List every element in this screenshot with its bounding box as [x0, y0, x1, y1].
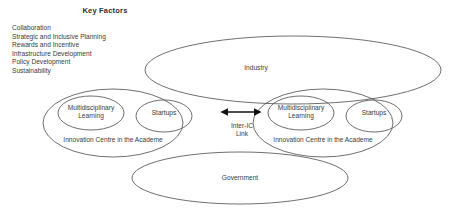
inter-ic-link-label-line1: Inter-IC [231, 122, 253, 129]
right-innovation-centre-label: Innovation Centre in the Academe [268, 136, 378, 144]
left-multidisciplinary-learning-label: Multidisciplinary Learning [62, 104, 120, 121]
diagram-canvas: Key Factors Collaboration Strategic and … [0, 0, 463, 220]
inter-ic-link-label-line2: Link [236, 130, 248, 137]
inter-ic-link-label: Inter-IC Link [220, 122, 264, 139]
industry-label: Industry [216, 64, 296, 72]
left-startups-label: Startups [140, 109, 188, 117]
right-startups-label: Startups [350, 109, 398, 117]
left-innovation-centre-label: Innovation Centre in the Academe [58, 136, 168, 144]
government-label: Government [200, 174, 280, 182]
right-multidisciplinary-learning-label: Multidisciplinary Learning [272, 104, 330, 121]
inter-ic-link-arrow [215, 104, 267, 122]
